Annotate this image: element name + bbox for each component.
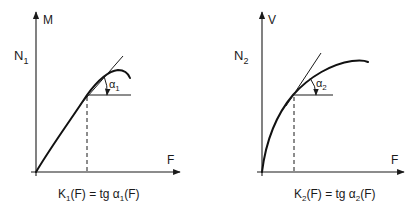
left-graph: M N1 F α1 K1(F) = tg α1(F) (14, 12, 180, 203)
right-y-axis-label: V (268, 13, 276, 27)
left-caption: K1(F) = tg α1(F) (58, 187, 140, 203)
left-y-quantity-label: N1 (14, 48, 28, 66)
right-angle-label: α2 (316, 77, 327, 92)
right-response-curve (262, 61, 368, 172)
left-angle-arc (104, 76, 107, 95)
left-y-axis-label: M (43, 13, 53, 27)
right-caption: K2(F) = tg α2(F) (294, 187, 376, 203)
diagram-canvas: M N1 F α1 K1(F) = tg α1(F) V N2 F α2 K2 (0, 0, 415, 213)
left-x-axis-label: F (167, 153, 174, 167)
right-graph: V N2 F α2 K2(F) = tg α2(F) (234, 12, 404, 203)
left-tangent-line (80, 56, 123, 105)
right-x-axis-label: F (391, 153, 398, 167)
right-y-quantity-label: N2 (234, 48, 248, 66)
left-angle-label: α1 (109, 78, 120, 93)
